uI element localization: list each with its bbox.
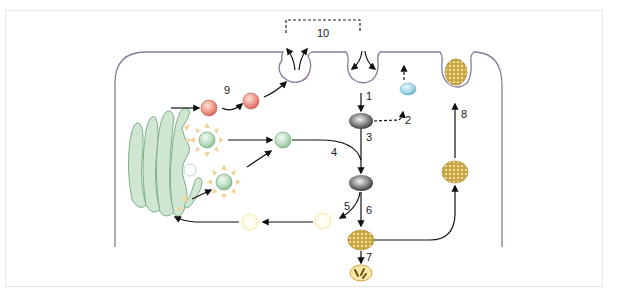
- arrow-step-2: [374, 112, 403, 121]
- retrograde-vesicle: [315, 213, 331, 229]
- degraded-lysosome: [350, 265, 372, 281]
- step-label-2: 2: [405, 114, 411, 126]
- empty-vesicle: [184, 164, 196, 176]
- step-label-9: 9: [224, 84, 230, 96]
- recycling-vesicle: [400, 83, 416, 95]
- early-endosome: [349, 113, 373, 129]
- step-label-8: 8: [461, 108, 467, 120]
- step-label-7: 7: [366, 251, 372, 263]
- arrow-step-4: [292, 140, 361, 173]
- arrow-secretory-to-membrane: [264, 82, 286, 97]
- arrow-secretory-maturation: [222, 104, 242, 110]
- step-label-3: 3: [366, 131, 372, 143]
- secretory-vesicle: [201, 100, 217, 116]
- secretory-lysosome: [442, 161, 468, 183]
- retrograde-vesicle-2: [242, 214, 258, 230]
- golgi-apparatus: [128, 108, 202, 216]
- arrow-lysosome-to-secretory: [374, 186, 455, 240]
- coated-vesicle-top: [190, 123, 224, 157]
- arrow-coated-to-uncoated: [247, 151, 271, 167]
- coated-vesicle-bottom: [207, 165, 241, 199]
- endocytosis-arrows: [352, 51, 375, 69]
- cell-trafficking-diagram: 10 9: [0, 0, 622, 293]
- step-label-6: 6: [366, 204, 372, 216]
- step-label-1: 1: [366, 90, 372, 102]
- lysosome: [348, 230, 374, 250]
- late-endosome: [349, 175, 373, 191]
- exocytosis-arrows: [287, 49, 307, 70]
- step-label-5: 5: [344, 200, 350, 212]
- fusing-lysosome: [445, 59, 467, 85]
- secretory-vesicle-mature: [243, 93, 259, 109]
- arrow-to-golgi: [175, 217, 239, 222]
- step-label-4: 4: [331, 146, 337, 158]
- uncoated-vesicle: [275, 132, 291, 148]
- step-label-10: 10: [317, 27, 329, 39]
